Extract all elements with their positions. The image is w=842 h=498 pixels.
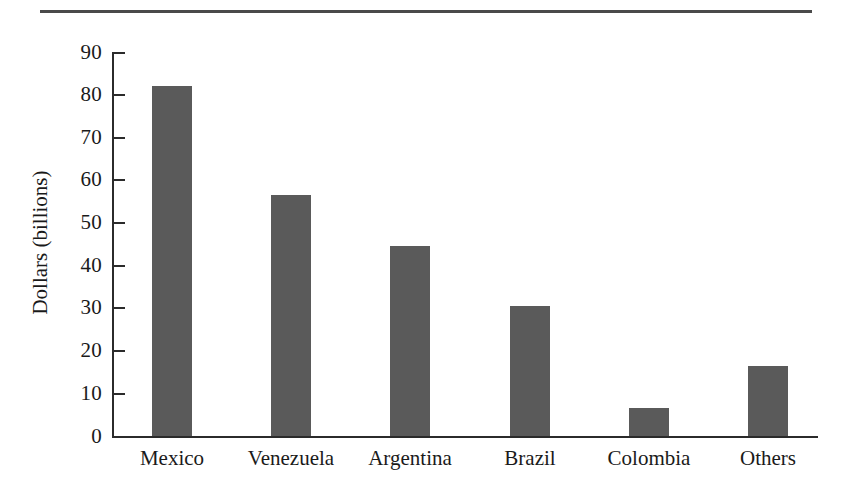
y-axis-tick-label-wrap: 60 bbox=[56, 169, 102, 190]
y-axis-tick-label-wrap: 80 bbox=[56, 84, 102, 105]
x-axis-label-venezuela: Venezuela bbox=[231, 446, 351, 470]
y-axis-tick bbox=[114, 137, 125, 139]
y-axis-tick-label-wrap: 40 bbox=[56, 255, 102, 276]
y-axis-tick-label-wrap: 10 bbox=[56, 383, 102, 404]
bar-others[interactable] bbox=[748, 366, 788, 436]
y-axis-tick-label-wrap: 90 bbox=[56, 42, 102, 63]
x-axis-label-mexico: Mexico bbox=[112, 446, 232, 470]
y-axis-tick-label: 30 bbox=[56, 297, 102, 318]
y-axis-tick-label-wrap: 70 bbox=[56, 127, 102, 148]
bar-slot bbox=[390, 52, 430, 436]
bar-mexico[interactable] bbox=[152, 86, 192, 436]
y-axis-tick bbox=[114, 350, 125, 352]
x-axis-line bbox=[112, 436, 818, 438]
y-axis-tick-label: 90 bbox=[56, 42, 102, 63]
y-axis-tick-label-wrap: 20 bbox=[56, 340, 102, 361]
x-axis-label-colombia: Colombia bbox=[589, 446, 709, 470]
bar-slot bbox=[629, 52, 669, 436]
bar-argentina[interactable] bbox=[390, 246, 430, 436]
y-axis-title: Dollars (billions) bbox=[30, 133, 51, 353]
chart-page: Dollars (billions) 90 80 70 60 50 40 30 bbox=[0, 0, 842, 498]
y-axis-tick-label: 80 bbox=[56, 84, 102, 105]
bar-slot bbox=[152, 52, 192, 436]
y-axis-tick-label: 0 bbox=[56, 426, 102, 447]
y-axis-tick-label-wrap: 50 bbox=[56, 212, 102, 233]
y-axis-tick-label: 10 bbox=[56, 383, 102, 404]
y-axis-tick bbox=[114, 393, 125, 395]
y-axis-tick-label: 20 bbox=[56, 340, 102, 361]
y-axis-tick bbox=[114, 307, 125, 309]
bar-brazil[interactable] bbox=[510, 306, 550, 436]
y-axis-tick bbox=[114, 179, 125, 181]
y-axis-tick bbox=[114, 222, 125, 224]
bar-venezuela[interactable] bbox=[271, 195, 311, 436]
x-axis-label-others: Others bbox=[708, 446, 828, 470]
y-axis-tick-label: 70 bbox=[56, 127, 102, 148]
y-axis-tick-label: 50 bbox=[56, 212, 102, 233]
bar-slot bbox=[510, 52, 550, 436]
plot-area: Dollars (billions) 90 80 70 60 50 40 30 bbox=[0, 0, 842, 498]
y-axis-line bbox=[112, 52, 114, 438]
bar-colombia[interactable] bbox=[629, 408, 669, 436]
y-axis-tick bbox=[114, 94, 125, 96]
y-axis-tick-label-wrap: 30 bbox=[56, 297, 102, 318]
x-axis-label-brazil: Brazil bbox=[470, 446, 590, 470]
x-axis-label-argentina: Argentina bbox=[350, 446, 470, 470]
y-axis-tick-label-wrap: 0 bbox=[56, 426, 102, 447]
y-axis-tick bbox=[114, 52, 125, 54]
bar-slot bbox=[271, 52, 311, 436]
y-axis-tick-label: 40 bbox=[56, 255, 102, 276]
y-axis-tick bbox=[114, 265, 125, 267]
y-axis-tick-label: 60 bbox=[56, 169, 102, 190]
bar-slot bbox=[748, 52, 788, 436]
